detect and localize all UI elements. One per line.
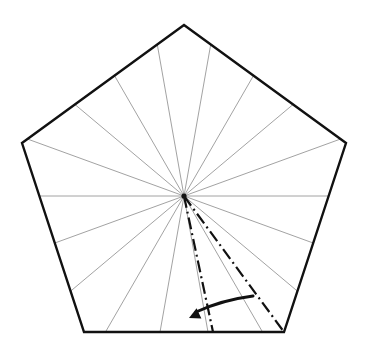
diagram-root bbox=[0, 0, 365, 348]
pentagon-outline bbox=[22, 25, 346, 332]
pentagon-center-point bbox=[181, 193, 186, 198]
pentagon-diagram-svg bbox=[0, 0, 365, 348]
